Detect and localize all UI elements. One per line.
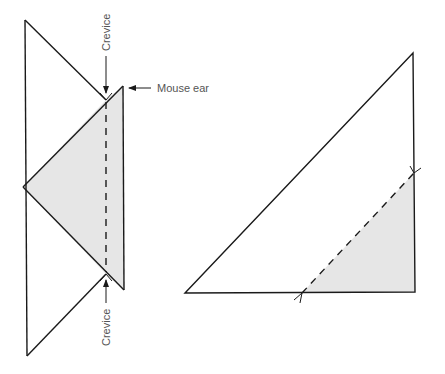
bottom-diagonal-edge: [27, 274, 106, 356]
mouse-ear-shaded-region: [23, 86, 124, 290]
side-cut-mark: [410, 166, 421, 173]
bottom-crevice-label: Crevice: [100, 309, 112, 346]
mouse-ear-edge: [123, 86, 124, 290]
left-figure: Crevice Crevice Mouse ear: [23, 14, 209, 356]
mouse-ear-label: Mouse ear: [157, 82, 209, 94]
right-figure: [185, 53, 421, 303]
bottom-cut-mark: [294, 293, 302, 303]
left-edge: [25, 20, 27, 356]
cone-pattern-diagram: Crevice Crevice Mouse ear: [0, 0, 445, 374]
top-crevice-label: Crevice: [100, 14, 112, 51]
top-diagonal-edge: [25, 20, 106, 100]
